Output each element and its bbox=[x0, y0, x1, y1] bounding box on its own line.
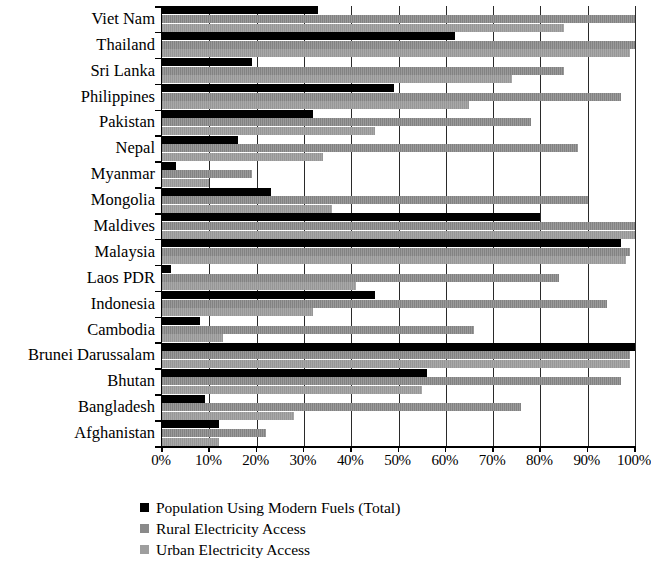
bar-urban bbox=[162, 127, 375, 135]
bar-urban bbox=[162, 205, 332, 213]
y-axis-tick bbox=[155, 446, 161, 448]
y-axis-category-label: Brunei Darussalam bbox=[0, 345, 155, 365]
bar-urban bbox=[162, 308, 313, 316]
y-axis-category-label: Thailand bbox=[0, 35, 155, 55]
y-axis-category-label: Malaysia bbox=[0, 242, 155, 262]
y-axis-tick bbox=[155, 394, 161, 396]
y-axis-tick bbox=[155, 342, 161, 344]
bar-urban bbox=[162, 75, 512, 83]
x-axis-tick-label: 90% bbox=[573, 452, 600, 469]
bar-total bbox=[162, 420, 219, 428]
bar-total bbox=[162, 6, 318, 14]
y-axis-category-label: Bhutan bbox=[0, 371, 155, 391]
bar-rural bbox=[162, 93, 621, 101]
bar-total bbox=[162, 84, 394, 92]
bar-urban bbox=[162, 282, 356, 290]
legend-swatch-icon bbox=[140, 545, 149, 554]
bar-rural bbox=[162, 15, 635, 23]
bar-urban bbox=[162, 49, 630, 57]
y-axis-category-label: Sri Lanka bbox=[0, 61, 155, 81]
bar-rural bbox=[162, 403, 521, 411]
y-axis-tick bbox=[155, 420, 161, 422]
x-axis-tick-label: 20% bbox=[242, 452, 269, 469]
bar-rural bbox=[162, 41, 635, 49]
bar-rural bbox=[162, 222, 635, 230]
bar-total bbox=[162, 317, 200, 325]
y-axis-category-label: Cambodia bbox=[0, 320, 155, 340]
y-axis-tick bbox=[155, 291, 161, 293]
legend-item: Population Using Modern Fuels (Total) bbox=[140, 497, 400, 518]
x-axis-tick-label: 30% bbox=[290, 452, 317, 469]
y-axis-tick bbox=[155, 368, 161, 370]
bar-total bbox=[162, 343, 635, 351]
x-axis-tick-label: 0% bbox=[151, 452, 170, 469]
chart-legend: Population Using Modern Fuels (Total)Rur… bbox=[140, 497, 400, 560]
y-axis-tick bbox=[155, 317, 161, 319]
y-axis-category-label: Afghanistan bbox=[0, 423, 155, 443]
y-axis-tick bbox=[155, 84, 161, 86]
bar-total bbox=[162, 395, 205, 403]
bar-total bbox=[162, 58, 252, 66]
y-axis-category-label: Pakistan bbox=[0, 112, 155, 132]
bar-urban bbox=[162, 334, 223, 342]
bar-rural bbox=[162, 248, 630, 256]
legend-item: Rural Electricity Access bbox=[140, 518, 400, 539]
y-axis-category-label: Bangladesh bbox=[0, 397, 155, 417]
bar-rural bbox=[162, 274, 559, 282]
bar-total bbox=[162, 291, 375, 299]
y-axis-category-label: Mongolia bbox=[0, 190, 155, 210]
y-axis-category-label: Maldives bbox=[0, 216, 155, 236]
bar-urban bbox=[162, 231, 635, 239]
bar-urban bbox=[162, 101, 469, 109]
y-axis-tick bbox=[155, 135, 161, 137]
bar-rural bbox=[162, 326, 474, 334]
bar-rural bbox=[162, 118, 531, 126]
bar-total bbox=[162, 369, 427, 377]
bar-total bbox=[162, 265, 171, 273]
bar-rural bbox=[162, 351, 630, 359]
y-axis-category-label: Philippines bbox=[0, 87, 155, 107]
x-axis-tick-label: 50% bbox=[384, 452, 411, 469]
y-axis-tick bbox=[155, 6, 161, 8]
y-axis-category-label: Indonesia bbox=[0, 294, 155, 314]
y-axis-tick bbox=[155, 265, 161, 267]
x-axis-tick-label: 70% bbox=[479, 452, 506, 469]
y-axis-category-label: Viet Nam bbox=[0, 9, 155, 29]
legend-label: Urban Electricity Access bbox=[156, 541, 310, 559]
plot-area bbox=[161, 6, 635, 446]
bar-chart: 0%10%20%30%40%50%60%70%80%90%100% Viet N… bbox=[0, 0, 651, 562]
bar-urban bbox=[162, 438, 219, 446]
legend-item: Urban Electricity Access bbox=[140, 539, 400, 560]
y-axis-category-label: Myanmar bbox=[0, 164, 155, 184]
y-axis-tick bbox=[155, 239, 161, 241]
bar-urban bbox=[162, 24, 564, 32]
y-axis-tick bbox=[155, 32, 161, 34]
bar-rural bbox=[162, 67, 564, 75]
bar-rural bbox=[162, 170, 252, 178]
y-axis-tick bbox=[155, 110, 161, 112]
y-axis-category-label: Nepal bbox=[0, 138, 155, 158]
x-axis-tick-label: 80% bbox=[526, 452, 553, 469]
x-axis-tick-label: 60% bbox=[431, 452, 458, 469]
bar-urban bbox=[162, 179, 209, 187]
x-axis-tick-label: 100% bbox=[617, 452, 651, 469]
legend-swatch-icon bbox=[140, 524, 149, 533]
bar-total bbox=[162, 213, 540, 221]
x-axis-tick-label: 40% bbox=[337, 452, 364, 469]
bar-total bbox=[162, 32, 455, 40]
bar-urban bbox=[162, 256, 626, 264]
y-axis-tick bbox=[155, 161, 161, 163]
bar-total bbox=[162, 188, 271, 196]
bar-urban bbox=[162, 360, 630, 368]
y-axis-tick bbox=[155, 58, 161, 60]
bar-urban bbox=[162, 153, 323, 161]
bar-total bbox=[162, 239, 621, 247]
legend-swatch-icon bbox=[140, 503, 149, 512]
bar-total bbox=[162, 110, 313, 118]
bar-rural bbox=[162, 377, 621, 385]
gridline bbox=[635, 6, 636, 446]
bar-rural bbox=[162, 144, 578, 152]
y-axis-tick bbox=[155, 187, 161, 189]
bar-urban bbox=[162, 386, 422, 394]
y-axis-tick bbox=[155, 213, 161, 215]
